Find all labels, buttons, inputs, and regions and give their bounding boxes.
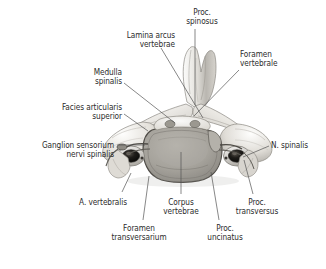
label-n-spinalis: N. spinalis xyxy=(271,141,323,150)
proc-spinosus-shape xyxy=(183,47,216,111)
label-proc-uncinatus: Proc. uncinatus xyxy=(195,224,255,243)
anatomy-figure: Lamina arcus vertebraeProc. spinosusFora… xyxy=(0,0,326,269)
label-proc-spinosus: Proc. spinosus xyxy=(176,8,228,27)
label-corpus-vertebrae: Corpus vertebrae xyxy=(150,198,212,217)
label-medulla-spinalis: Medulla spinalis xyxy=(58,68,122,87)
label-ganglion-sensorium-nervi-spinalis: Ganglion sensorium nervi spinalis xyxy=(7,141,114,160)
leader-medulla-spinalis xyxy=(124,83,175,123)
label-proc-transversus: Proc. transversus xyxy=(224,198,290,217)
label-a-vertebralis: A. vertebralis xyxy=(57,198,127,207)
label-foramen-transversarium: Foramen transversarium xyxy=(98,224,180,243)
label-foramen-vertebrale: Foramen vertebrale xyxy=(240,50,302,69)
label-facies-articularis-superior: Facies articularis superior xyxy=(22,103,122,122)
label-lamina-arcus-vertebrae: Lamina arcus vertebrae xyxy=(103,31,175,50)
